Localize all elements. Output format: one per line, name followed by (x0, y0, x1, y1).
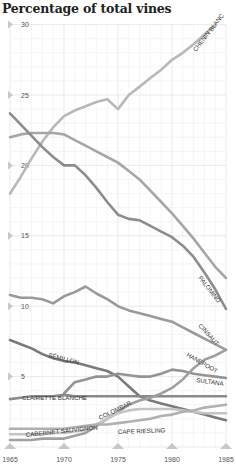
y-tick-marker-icon (8, 21, 13, 29)
y-tick-label: 5 (21, 373, 25, 380)
x-tick-marker-icon (58, 443, 70, 449)
y-tick-label: 10 (21, 303, 29, 310)
series-label-clairette-blanche: CLAIRETTE BLANCHE (22, 394, 87, 401)
x-tick-label: 1985 (218, 456, 234, 463)
x-tick-label: 1970 (56, 456, 72, 463)
y-tick-marker-icon (8, 373, 13, 381)
y-tick-marker-icon (8, 161, 13, 169)
x-tick-label: 1975 (110, 456, 126, 463)
y-tick-marker-icon (8, 302, 13, 310)
series-label-chenin-blanc: CHENIN BLANC (191, 12, 225, 53)
x-tick-marker-icon (4, 443, 16, 449)
x-tick-marker-icon (220, 443, 232, 449)
y-tick-label: 15 (21, 232, 29, 239)
series-label-cabernet-sauvignon: CABERNET SAUVIGNON (25, 423, 98, 438)
x-tick-label: 1980 (164, 456, 180, 463)
x-tick-marker-icon (112, 443, 124, 449)
y-tick-label: 30 (21, 21, 29, 28)
series-label-cape-riesling: CAPE RIESLING (118, 426, 166, 435)
y-tick-label: 25 (21, 92, 29, 99)
y-tick-marker-icon (8, 232, 13, 240)
y-tick-marker-icon (8, 91, 13, 99)
x-tick-label: 1965 (2, 456, 18, 463)
grid (10, 25, 226, 447)
x-tick-marker-icon (166, 443, 178, 449)
line-chart: 5101520253019651970197519801985CHENIN BL… (0, 0, 236, 465)
